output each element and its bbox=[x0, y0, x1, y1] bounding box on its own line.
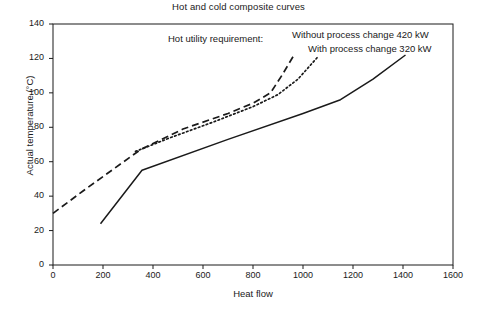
series-line bbox=[136, 57, 319, 152]
x-tick-label: 1600 bbox=[433, 270, 473, 280]
series-line bbox=[53, 57, 293, 214]
chart-figure: Hot and cold composite curves Hot utilit… bbox=[0, 0, 477, 310]
x-tick-label: 1200 bbox=[333, 270, 373, 280]
y-tick-label: 120 bbox=[10, 52, 44, 62]
y-tick-label: 40 bbox=[10, 190, 44, 200]
y-tick-label: 20 bbox=[10, 225, 44, 235]
y-tick-label: 140 bbox=[10, 18, 44, 28]
x-tick-label: 600 bbox=[183, 270, 223, 280]
x-tick-label: 200 bbox=[83, 270, 123, 280]
x-tick-label: 400 bbox=[133, 270, 173, 280]
y-tick-label: 80 bbox=[10, 121, 44, 131]
y-tick-label: 100 bbox=[10, 87, 44, 97]
x-tick-label: 800 bbox=[233, 270, 273, 280]
plot-frame bbox=[53, 24, 453, 265]
y-tick-label: 60 bbox=[10, 156, 44, 166]
x-tick-label: 0 bbox=[33, 270, 73, 280]
series-line bbox=[101, 55, 406, 224]
x-tick-label: 1400 bbox=[383, 270, 423, 280]
x-tick-label: 1000 bbox=[283, 270, 323, 280]
plot-area bbox=[0, 0, 477, 310]
y-tick-label: 0 bbox=[10, 259, 44, 269]
